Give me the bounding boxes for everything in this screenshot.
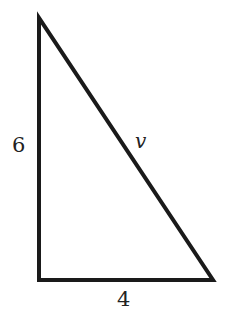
horizontal-side-label: 4 <box>117 287 130 311</box>
hypotenuse-label: v <box>135 129 147 153</box>
right-triangle-diagram: 6 4 v <box>0 0 229 324</box>
vertical-side-label: 6 <box>12 133 25 157</box>
triangle-shape <box>39 18 213 280</box>
